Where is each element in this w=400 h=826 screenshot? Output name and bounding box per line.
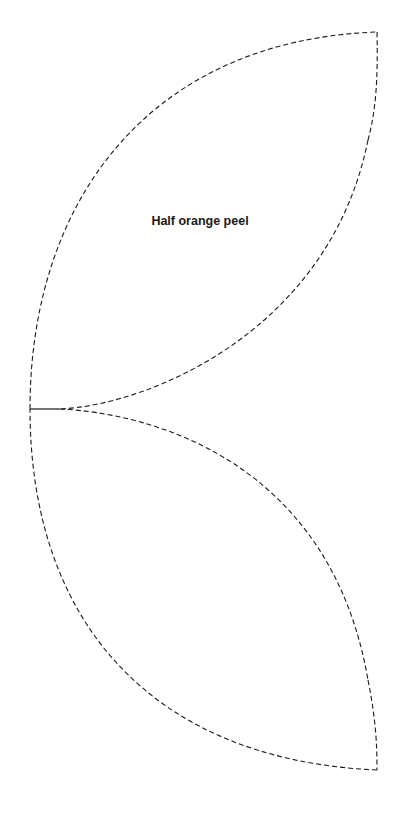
lower-lobe-right-edge: [368, 680, 377, 770]
lower-lobe-outer-edge: [30, 409, 377, 770]
upper-lobe-right-edge: [368, 32, 377, 140]
upper-lobe-inner-edge: [60, 140, 368, 409]
diagram-title: Half orange peel: [151, 214, 248, 228]
half-orange-peel-diagram: Half orange peel: [0, 0, 400, 826]
lower-lobe-inner-edge: [60, 409, 368, 680]
